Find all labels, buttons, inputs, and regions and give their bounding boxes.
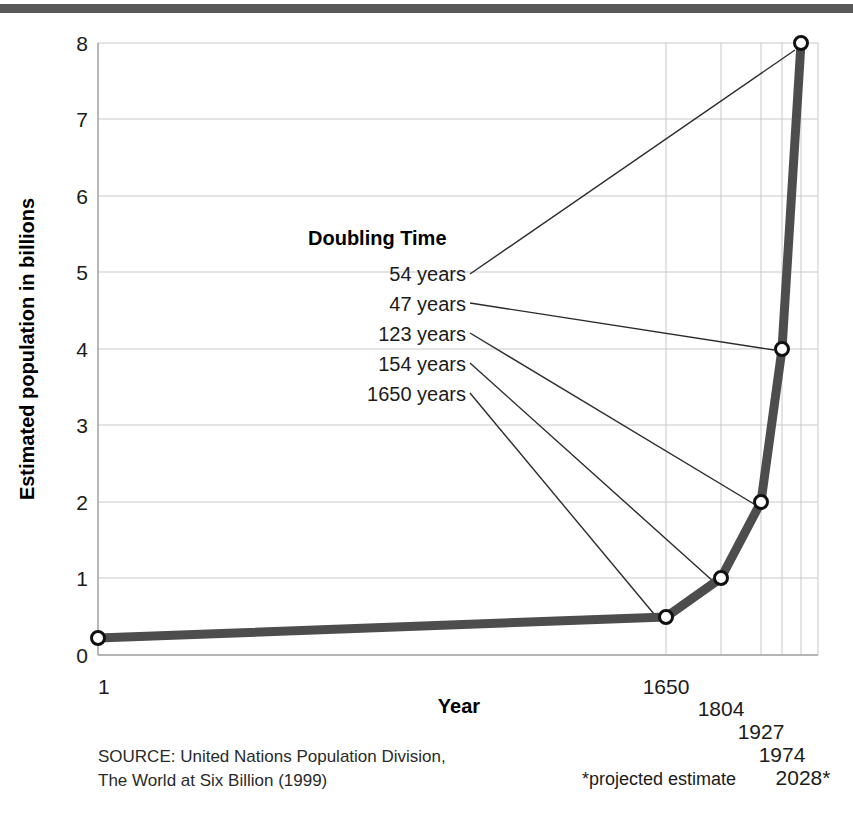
ytick-label-1: 1 bbox=[76, 567, 88, 590]
leader-line-54-years bbox=[470, 50, 795, 274]
xtick-label-1650: 1650 bbox=[643, 675, 690, 698]
xtick-label-1974: 1974 bbox=[759, 743, 806, 766]
ytick-label-4: 4 bbox=[76, 338, 88, 361]
ytick-label-6: 6 bbox=[76, 185, 88, 208]
projected-estimate-footnote: *projected estimate bbox=[582, 769, 736, 789]
leader-line-123-years bbox=[470, 333, 754, 504]
doubling-time-heading: Doubling Time bbox=[308, 227, 447, 249]
data-point-year-1804[interactable] bbox=[715, 572, 728, 585]
doubling-time-item-123-years: 123 years bbox=[378, 323, 466, 345]
chart-page: 8 7 6 5 4 3 2 1 0 Estimated population i… bbox=[0, 0, 853, 829]
source-line-2: The World at Six Billion (1999) bbox=[98, 771, 327, 790]
y-axis-title: Estimated population in billions bbox=[16, 198, 38, 500]
ytick-label-2: 2 bbox=[76, 491, 88, 514]
horizontal-gridlines bbox=[98, 43, 818, 655]
data-point-year-1[interactable] bbox=[92, 632, 105, 645]
doubling-time-item-47-years: 47 years bbox=[389, 293, 466, 315]
xtick-label-1927: 1927 bbox=[738, 720, 785, 743]
doubling-time-annotation-block: Doubling Time 54 years 47 years 123 year… bbox=[308, 227, 466, 405]
data-point-year-2028[interactable] bbox=[795, 37, 808, 50]
population-growth-line-chart: 8 7 6 5 4 3 2 1 0 Estimated population i… bbox=[0, 0, 853, 829]
data-point-year-1650[interactable] bbox=[660, 611, 673, 624]
leader-line-47-years bbox=[470, 303, 774, 350]
data-point-year-1974[interactable] bbox=[776, 343, 789, 356]
y-axis-tick-labels: 8 7 6 5 4 3 2 1 0 bbox=[76, 32, 88, 667]
xtick-label-2028: 2028* bbox=[776, 766, 831, 789]
source-line-1: SOURCE: United Nations Population Divisi… bbox=[98, 747, 446, 766]
source-credit: SOURCE: United Nations Population Divisi… bbox=[98, 747, 446, 790]
doubling-time-item-1650-years: 1650 years bbox=[367, 383, 466, 405]
ytick-label-3: 3 bbox=[76, 414, 88, 437]
ytick-label-0: 0 bbox=[76, 644, 88, 667]
leader-line-154-years bbox=[470, 363, 714, 582]
doubling-time-item-154-years: 154 years bbox=[378, 353, 466, 375]
doubling-time-item-54-years: 54 years bbox=[389, 263, 466, 285]
x-axis-title: Year bbox=[438, 695, 480, 717]
xtick-label-1804: 1804 bbox=[698, 697, 745, 720]
data-point-year-1927[interactable] bbox=[755, 496, 768, 509]
ytick-label-7: 7 bbox=[76, 108, 88, 131]
xtick-label-1: 1 bbox=[98, 675, 110, 698]
ytick-label-8: 8 bbox=[76, 32, 88, 55]
ytick-label-5: 5 bbox=[76, 261, 88, 284]
